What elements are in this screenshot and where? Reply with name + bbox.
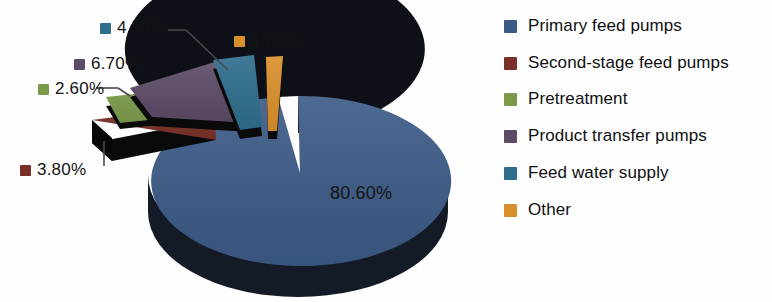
data-label-pretreatment: 2.60%	[38, 79, 104, 99]
legend-swatch-primary-feed-pumps	[504, 20, 517, 33]
legend-item-primary-feed-pumps: Primary feed pumps	[504, 16, 772, 37]
pie-slice-red-side	[92, 120, 112, 161]
legend-swatch-other	[504, 204, 517, 217]
data-label-swatch-product-transfer-pumps	[74, 59, 85, 70]
legend-swatch-pretreatment	[504, 93, 517, 106]
data-label-value-primary-feed-pumps: 80.60%	[330, 183, 392, 204]
legend-item-product-transfer-pumps: Product transfer pumps	[504, 126, 772, 147]
legend-label-product-transfer-pumps: Product transfer pumps	[528, 126, 707, 147]
legend-item-second-stage-feed-pumps: Second-stage feed pumps	[504, 53, 772, 74]
data-label-second-stage-feed-pumps: 3.80%	[20, 160, 86, 180]
data-label-value-pretreatment: 2.60%	[55, 79, 104, 99]
data-label-swatch-pretreatment	[38, 84, 49, 95]
data-label-product-transfer-pumps: 6.70%	[74, 54, 140, 74]
chart-legend: Primary feed pumps Second-stage feed pum…	[504, 16, 772, 236]
legend-item-pretreatment: Pretreatment	[504, 89, 772, 110]
legend-item-feed-water-supply: Feed water supply	[504, 163, 772, 184]
data-label-value-other: 1.80%	[251, 31, 300, 51]
legend-swatch-second-stage-feed-pumps	[504, 57, 517, 70]
leader-line-pretreatment-elbow	[118, 88, 130, 96]
legend-label-other: Other	[528, 200, 571, 221]
legend-swatch-feed-water-supply	[504, 167, 517, 180]
data-label-swatch-other	[234, 36, 245, 47]
data-label-value-feed-water-supply: 4.50%	[117, 18, 166, 38]
legend-swatch-product-transfer-pumps	[504, 130, 517, 143]
data-label-other: 1.80%	[234, 31, 300, 51]
legend-label-second-stage-feed-pumps: Second-stage feed pumps	[528, 53, 729, 74]
data-label-primary-feed-pumps: 80.60%	[330, 183, 392, 204]
pie-chart-figure: 4.50% 1.80% 6.70% 2.60% 3.80% 80.60% Pri…	[0, 0, 772, 302]
data-label-swatch-second-stage-feed-pumps	[20, 165, 31, 176]
data-label-value-product-transfer-pumps: 6.70%	[91, 54, 140, 74]
data-label-value-second-stage-feed-pumps: 3.80%	[37, 160, 86, 180]
data-label-swatch-feed-water-supply	[100, 23, 111, 34]
legend-label-pretreatment: Pretreatment	[528, 89, 627, 110]
legend-label-primary-feed-pumps: Primary feed pumps	[528, 16, 682, 37]
pie-plot-area: 4.50% 1.80% 6.70% 2.60% 3.80% 80.60%	[0, 0, 470, 302]
data-label-feed-water-supply: 4.50%	[100, 18, 166, 38]
legend-label-feed-water-supply: Feed water supply	[528, 163, 669, 184]
legend-item-other: Other	[504, 200, 772, 221]
